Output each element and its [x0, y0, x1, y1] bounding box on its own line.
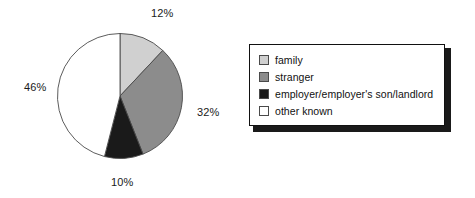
- pie-chart-svg: [0, 0, 240, 198]
- legend-label-family: family: [275, 54, 303, 66]
- pie-chart: 12% 32% 10% 46%: [0, 0, 240, 198]
- legend-swatch-family: [259, 55, 269, 65]
- legend-box: family stranger employer/employer's son/…: [249, 44, 445, 126]
- chart-canvas: 12% 32% 10% 46% family stranger employer…: [0, 0, 475, 198]
- legend-item-family: family: [259, 51, 444, 68]
- pie-slice-group: [57, 34, 182, 159]
- legend-swatch-employer: [259, 89, 269, 99]
- legend-label-other-known: other known: [275, 105, 333, 117]
- legend-item-other-known: other known: [259, 102, 444, 119]
- legend-label-employer: employer/employer's son/landlord: [275, 88, 433, 100]
- pie-label-other: 46%: [24, 81, 46, 93]
- legend-swatch-stranger: [259, 72, 269, 82]
- legend-swatch-other-known: [259, 106, 269, 116]
- pie-label-family: 12%: [151, 7, 173, 19]
- pie-label-employer: 10%: [111, 176, 133, 188]
- legend-label-stranger: stranger: [275, 71, 314, 83]
- pie-label-stranger: 32%: [197, 106, 219, 118]
- legend-item-employer: employer/employer's son/landlord: [259, 85, 444, 102]
- legend-item-stranger: stranger: [259, 68, 444, 85]
